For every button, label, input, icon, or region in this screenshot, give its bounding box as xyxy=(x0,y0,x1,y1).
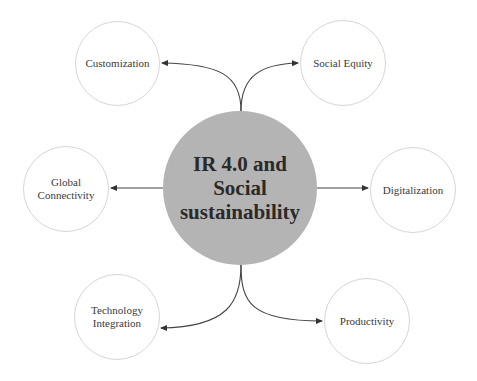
arrow-to-social-equity xyxy=(241,63,298,111)
node-social-equity: Social Equity xyxy=(300,20,386,106)
node-productivity: Productivity xyxy=(324,278,410,364)
central-topic-label: IR 4.0 and Social sustainability xyxy=(180,152,300,224)
node-label: Productivity xyxy=(340,315,394,328)
arrow-to-technology-integration xyxy=(161,265,241,328)
node-label: Technology Integration xyxy=(91,304,143,330)
node-label: Digitalization xyxy=(383,184,443,197)
node-technology-integration: Technology Integration xyxy=(74,274,160,360)
node-global-connectivity: Global Connectivity xyxy=(23,146,109,232)
node-label: Social Equity xyxy=(313,57,373,70)
node-digitalization: Digitalization xyxy=(370,147,456,233)
arrow-to-productivity xyxy=(241,265,322,321)
arrow-to-customization xyxy=(162,63,241,111)
central-topic-circle: IR 4.0 and Social sustainability xyxy=(163,111,317,265)
node-label: Customization xyxy=(85,57,149,70)
node-label: Global Connectivity xyxy=(38,176,95,202)
node-customization: Customization xyxy=(75,21,160,106)
